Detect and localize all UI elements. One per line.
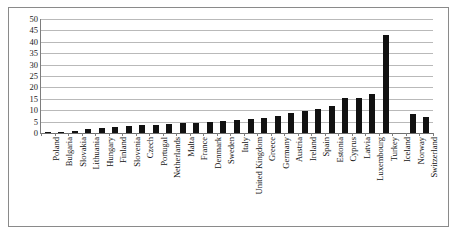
x-axis-tick — [230, 133, 231, 136]
x-axis-category-label: Estonia — [336, 137, 345, 163]
x-axis-tick — [433, 133, 434, 136]
y-axis-tick-label: 35 — [2, 49, 38, 57]
bar — [275, 116, 281, 133]
bar — [356, 98, 362, 133]
x-axis-tick — [392, 133, 393, 136]
bar — [342, 98, 348, 133]
x-axis-tick — [271, 133, 272, 136]
x-axis-category-label: Spain — [322, 137, 331, 156]
x-axis-category-label: France — [200, 137, 209, 160]
x-axis-category-label: Denmark — [214, 137, 223, 169]
bar — [288, 113, 294, 133]
x-axis-category-label: Ireland — [309, 137, 318, 161]
x-axis-tick — [163, 133, 164, 136]
x-axis-category-label: Poland — [52, 137, 61, 161]
x-axis-category-label: Lithuania — [92, 137, 101, 170]
bar — [85, 129, 91, 133]
y-axis-tick-label: 0 — [2, 129, 38, 137]
x-axis-tick — [149, 133, 150, 136]
x-axis-category-label: Latvia — [363, 137, 372, 159]
x-axis-tick — [257, 133, 258, 136]
y-axis-tick-labels: 05101520253035404550 — [0, 0, 38, 140]
x-axis-tick — [190, 133, 191, 136]
x-axis-category-label: Greece — [268, 137, 277, 161]
bar — [99, 128, 105, 133]
y-axis-tick-label: 5 — [2, 118, 38, 126]
x-axis-category-label: Switzerland — [430, 137, 439, 178]
x-axis-tick — [68, 133, 69, 136]
y-axis-tick-label: 45 — [2, 26, 38, 34]
x-axis-tick — [217, 133, 218, 136]
x-axis-tick — [325, 133, 326, 136]
bar — [180, 123, 186, 133]
bar — [58, 132, 64, 133]
x-axis-tick — [244, 133, 245, 136]
bar — [72, 131, 78, 134]
bar — [112, 127, 118, 133]
x-axis-category-label: Portugal — [160, 137, 169, 166]
bar — [329, 106, 335, 133]
x-axis-category-label: Malta — [187, 137, 196, 157]
x-axis-category-label: Hungary — [106, 137, 115, 167]
x-axis-category-label: Luxembourg — [376, 137, 385, 181]
bar — [220, 121, 226, 133]
x-axis-category-label: Bulgaria — [65, 137, 74, 166]
x-axis-tick — [284, 133, 285, 136]
x-axis-tick — [136, 133, 137, 136]
bar — [193, 123, 199, 133]
x-axis-category-labels: PolandBulgariaSlovakiaLithuaniaHungaryFi… — [41, 137, 433, 225]
bar — [234, 120, 240, 133]
x-axis-category-label: Cyprus — [349, 137, 358, 162]
x-axis-category-label: Netherlands — [173, 137, 182, 178]
x-axis-tick — [338, 133, 339, 136]
bar — [45, 132, 51, 133]
x-axis-category-label: Slovakia — [79, 137, 88, 167]
chart-page: 05101520253035404550 PolandBulgariaSlova… — [0, 0, 459, 234]
bar — [153, 125, 159, 133]
x-axis-tick — [379, 133, 380, 136]
x-axis-tick — [406, 133, 407, 136]
bar — [139, 125, 145, 133]
x-axis-category-label: Slovenia — [133, 137, 142, 167]
x-axis-category-label: Iceland — [403, 137, 412, 162]
x-axis-tick — [55, 133, 56, 136]
bar — [369, 94, 375, 133]
gridline — [41, 133, 433, 134]
y-axis-tick-label: 40 — [2, 38, 38, 46]
x-axis-tick — [419, 133, 420, 136]
x-axis-tick — [82, 133, 83, 136]
bar — [410, 114, 416, 133]
x-axis-category-label: Sweden — [227, 137, 236, 164]
y-axis-tick-label: 25 — [2, 72, 38, 80]
x-axis-category-label: Germany — [282, 137, 291, 169]
x-axis-tick — [365, 133, 366, 136]
bar — [315, 109, 321, 133]
x-axis-tick — [298, 133, 299, 136]
y-axis-tick-label: 20 — [2, 83, 38, 91]
bar — [207, 122, 213, 133]
bar — [383, 35, 389, 133]
x-axis-category-label: Norway — [417, 137, 426, 164]
y-axis-tick-label: 15 — [2, 95, 38, 103]
bar — [261, 118, 267, 134]
y-axis-tick-label: 30 — [2, 61, 38, 69]
x-axis-category-label: Finland — [119, 137, 128, 163]
bars-group — [41, 19, 433, 133]
x-axis-category-label: Turkey — [390, 137, 399, 161]
x-axis-category-label: Austria — [295, 137, 304, 162]
x-axis-category-label: United Kingdom — [255, 137, 264, 194]
bar — [166, 124, 172, 133]
x-axis-category-label: Italy — [241, 137, 250, 153]
x-axis-tick — [41, 133, 42, 136]
x-axis-category-label: Czech — [146, 137, 155, 158]
x-axis-tick — [122, 133, 123, 136]
x-axis-tick — [109, 133, 110, 136]
cropped-title-remnant — [70, 0, 320, 5]
bar — [126, 126, 132, 133]
x-axis-tick — [311, 133, 312, 136]
x-axis-tick — [352, 133, 353, 136]
x-axis-tick — [203, 133, 204, 136]
x-axis-tick — [95, 133, 96, 136]
bar — [423, 117, 429, 133]
x-axis-tick — [176, 133, 177, 136]
